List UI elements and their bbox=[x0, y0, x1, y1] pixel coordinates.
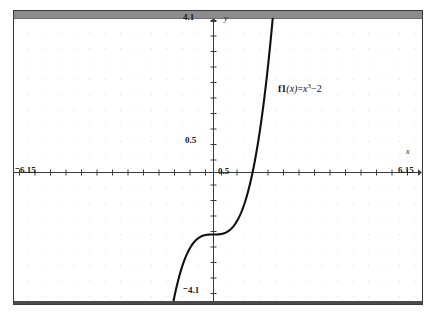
graph-screenshot: 4.1 ⁻4.1 0.5 ⁻6.15 6.15 0.5 y x f1(x)=x3… bbox=[0, 0, 438, 317]
x-axis-tick-label: 0.5 bbox=[218, 167, 229, 176]
plot-svg bbox=[14, 18, 422, 303]
x-axis-min-label: ⁻6.15 bbox=[15, 166, 36, 175]
y-axis-min-label: ⁻4.1 bbox=[183, 286, 199, 295]
x-axis-name-label: x bbox=[406, 148, 410, 156]
function-equation-label[interactable]: f1(x)=x3−2 bbox=[278, 84, 322, 94]
plot-canvas[interactable] bbox=[14, 18, 422, 303]
x-axis-max-label: 6.15 bbox=[398, 166, 414, 175]
y-axis-tick-label: 0.5 bbox=[185, 136, 196, 145]
graph-window-frame bbox=[13, 10, 423, 305]
function-argument: (x) bbox=[286, 83, 297, 94]
y-axis-name-label: y bbox=[224, 15, 228, 23]
y-axis-max-label: 4.1 bbox=[183, 13, 194, 22]
window-bottom-rule bbox=[14, 301, 422, 304]
function-constant: −2 bbox=[311, 83, 322, 94]
grid-dots bbox=[14, 18, 422, 303]
